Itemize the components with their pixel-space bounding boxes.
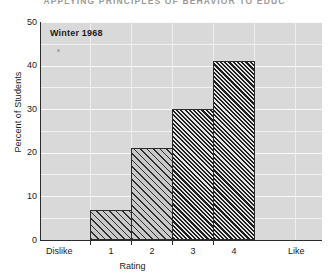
- x-endpoint-label-like: Like: [288, 246, 305, 256]
- bar-series: [41, 22, 322, 240]
- bar-chart-figure: 50 40 30 20 10 0 Percent of Students: [0, 0, 329, 278]
- x-tick-label-1: 1: [91, 246, 131, 256]
- bar-rating-3: [172, 109, 214, 240]
- x-tickmark-b: [131, 240, 132, 245]
- y-tick-label-50: 50: [3, 18, 37, 27]
- bar-rating-4: [213, 61, 255, 240]
- chart-annotation: Winter 1968: [50, 28, 103, 38]
- x-axis-title: Rating: [0, 261, 329, 271]
- x-endpoint-label-dislike: Dislike: [46, 246, 73, 256]
- bar-rating-1: [90, 210, 132, 241]
- x-tickmark-a: [90, 240, 91, 245]
- y-tick-label-10: 10: [3, 192, 37, 201]
- x-axis-title-text: Rating: [119, 261, 145, 271]
- x-tickmark-d: [213, 240, 214, 245]
- x-tick-label-4: 4: [214, 246, 254, 256]
- y-axis-line: [40, 22, 41, 241]
- bar-rating-2: [131, 148, 173, 240]
- x-tick-label-2: 2: [132, 246, 172, 256]
- x-tickmark-c: [172, 240, 173, 245]
- y-axis-title: Percent of Students: [13, 52, 23, 172]
- print-speck-artifact: [57, 49, 60, 52]
- plot-area: Winter 1968: [41, 22, 322, 240]
- x-axis-ticks: 1 2 3 4 Dislike Like: [0, 240, 329, 254]
- x-tick-label-3: 3: [173, 246, 213, 256]
